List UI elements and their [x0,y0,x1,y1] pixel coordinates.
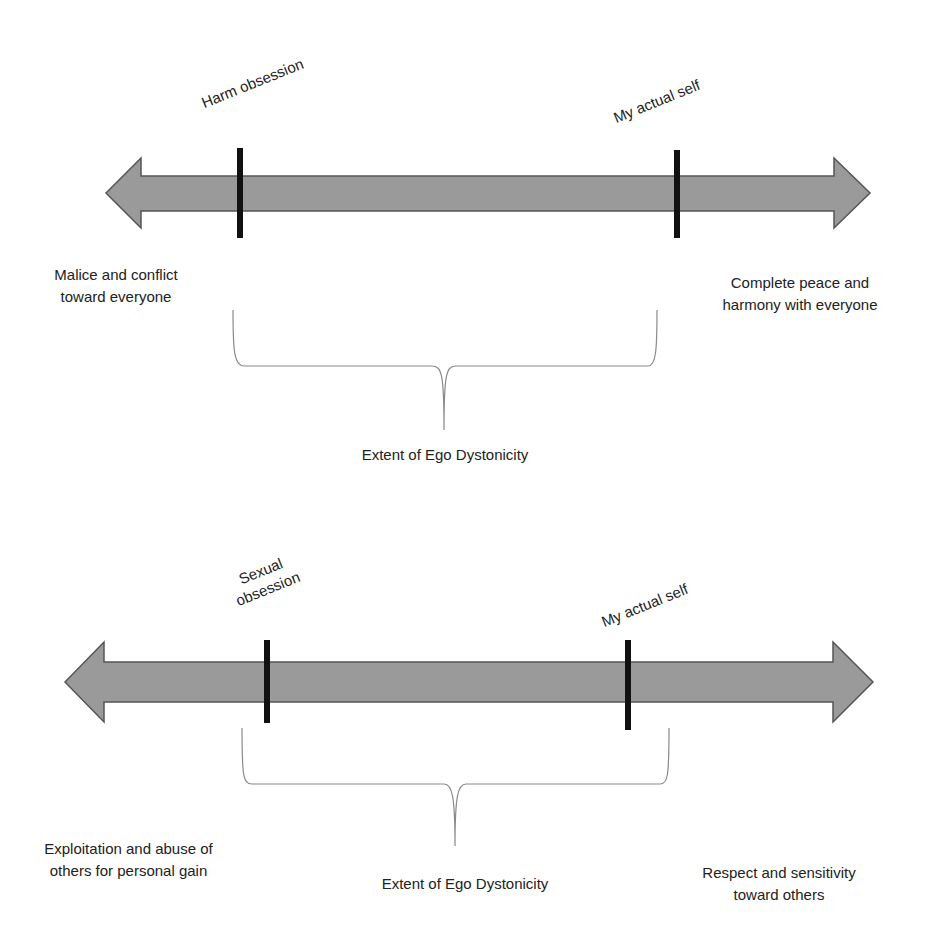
top-marker-harm-obsession [237,148,243,238]
bottom-left-pole-line-2: others for personal gain [6,860,251,882]
bottom-brace [242,728,669,846]
top-brace [233,310,657,430]
top-left-pole-line-1: Malice and conflict [26,264,206,286]
top-right-pole-label: Complete peace and harmony with everyone [685,272,915,316]
bottom-right-pole-line-2: toward others [664,884,894,906]
bottom-spectrum-arrow [65,642,873,722]
top-spectrum-arrow [106,158,870,228]
bottom-left-pole-line-1: Exploitation and abuse of [6,838,251,860]
top-brace-label: Extent of Ego Dystonicity [320,444,570,466]
top-right-pole-line-1: Complete peace and [685,272,915,294]
diagram-canvas [0,0,944,947]
bottom-left-pole-label: Exploitation and abuse of others for per… [6,838,251,882]
bottom-right-pole-line-1: Respect and sensitivity [664,862,894,884]
top-left-pole-label: Malice and conflict toward everyone [26,264,206,308]
top-left-pole-line-2: toward everyone [26,286,206,308]
bottom-brace-label: Extent of Ego Dystonicity [340,873,590,895]
bottom-marker-actual-self [625,640,631,730]
bottom-marker-sexual-obsession [264,640,270,723]
bottom-right-pole-label: Respect and sensitivity toward others [664,862,894,906]
top-marker-actual-self [674,150,680,238]
top-right-pole-line-2: harmony with everyone [685,294,915,316]
